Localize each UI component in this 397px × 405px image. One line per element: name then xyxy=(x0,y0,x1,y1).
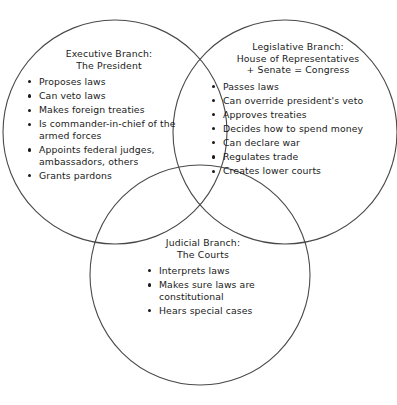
bullet-icon xyxy=(212,170,215,173)
list-item-label: Grants pardons xyxy=(39,170,112,181)
list-item-label: Approves treaties xyxy=(223,109,307,120)
list-item: Can declare war xyxy=(212,137,384,149)
executive-branch-block: Executive Branch: The President Proposes… xyxy=(28,48,190,182)
legislative-items-list: Passes laws Can override president's vet… xyxy=(212,81,384,177)
list-item-label: Decides how to spend money xyxy=(223,123,363,134)
list-item-label: Can veto laws xyxy=(39,90,106,101)
venn-diagram: Executive Branch: The President Proposes… xyxy=(0,0,397,405)
bullet-icon xyxy=(212,99,215,102)
list-item-label: Creates lower courts xyxy=(223,165,321,176)
bullet-icon xyxy=(28,174,31,177)
list-item-label: Interprets laws xyxy=(159,265,230,276)
bullet-icon xyxy=(212,113,215,116)
judicial-heading: Judicial Branch: The Courts xyxy=(128,237,278,260)
bullet-icon xyxy=(28,109,31,112)
judicial-heading-line2: The Courts xyxy=(128,249,278,261)
list-item-label: Proposes laws xyxy=(39,76,106,87)
judicial-items-list: Interprets laws Makes sure laws are cons… xyxy=(128,265,278,317)
list-item: Regulates trade xyxy=(212,151,384,163)
list-item: Appoints federal judges, ambassadors, ot… xyxy=(28,144,190,167)
bullet-icon xyxy=(148,269,151,272)
list-item: Decides how to spend money xyxy=(212,123,384,135)
bullet-icon xyxy=(212,85,215,88)
list-item-label: Can override president's veto xyxy=(223,95,363,106)
bullet-icon xyxy=(148,283,151,286)
list-item-label: Regulates trade xyxy=(223,151,298,162)
list-item: Is commander-in-chief of the armed force… xyxy=(28,118,190,141)
judicial-heading-line1: Judicial Branch: xyxy=(128,237,278,249)
list-item-label: Can declare war xyxy=(223,137,300,148)
bullet-icon xyxy=(28,94,31,97)
list-item-label: Makes sure laws are constitutional xyxy=(159,279,255,302)
legislative-heading-line3: + Senate = Congress xyxy=(212,64,384,76)
legislative-branch-block: Legislative Branch: House of Representat… xyxy=(212,41,384,177)
list-item: Hears special cases xyxy=(148,305,278,317)
bullet-icon xyxy=(212,127,215,130)
list-item-label: Is commander-in-chief of the armed force… xyxy=(39,118,176,141)
executive-heading-line2: The President xyxy=(28,60,190,72)
list-item-label: Appoints federal judges, ambassadors, ot… xyxy=(39,144,155,167)
bullet-icon xyxy=(28,123,31,126)
list-item-label: Passes laws xyxy=(223,81,279,92)
list-item: Makes sure laws are constitutional xyxy=(148,279,278,302)
list-item-label: Makes foreign treaties xyxy=(39,104,145,115)
executive-items-list: Proposes laws Can veto laws Makes foreig… xyxy=(28,76,190,182)
executive-heading: Executive Branch: The President xyxy=(28,48,190,71)
list-item: Passes laws xyxy=(212,81,384,93)
list-item: Can veto laws xyxy=(28,90,190,102)
legislative-heading: Legislative Branch: House of Representat… xyxy=(212,41,384,76)
executive-heading-line1: Executive Branch: xyxy=(28,48,190,60)
list-item: Proposes laws xyxy=(28,76,190,88)
list-item: Makes foreign treaties xyxy=(28,104,190,116)
list-item-label: Hears special cases xyxy=(159,305,253,316)
legislative-heading-line2: House of Representatives xyxy=(212,53,384,65)
bullet-icon xyxy=(212,141,215,144)
bullet-icon xyxy=(28,148,31,151)
list-item: Approves treaties xyxy=(212,109,384,121)
judicial-branch-block: Judicial Branch: The Courts Interprets l… xyxy=(128,237,278,317)
bullet-icon xyxy=(212,155,215,158)
legislative-heading-line1: Legislative Branch: xyxy=(212,41,384,53)
list-item: Can override president's veto xyxy=(212,95,384,107)
bullet-icon xyxy=(28,80,31,83)
bullet-icon xyxy=(148,309,151,312)
list-item: Grants pardons xyxy=(28,170,190,182)
list-item: Interprets laws xyxy=(148,265,278,277)
list-item: Creates lower courts xyxy=(212,165,384,177)
